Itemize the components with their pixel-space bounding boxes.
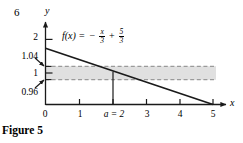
x-tick-label-3: 3 <box>140 110 154 120</box>
problem-number: 6 <box>14 7 20 18</box>
fraction-x-over-3: x 3 <box>99 28 105 45</box>
plus-sign: + <box>109 31 115 41</box>
equals-sign: = <box>79 31 85 41</box>
x-tick-label-a: a = 2 <box>96 110 132 120</box>
x-tick-label-0: 0 <box>38 110 52 120</box>
y-tick-label-2: 2 <box>22 33 38 43</box>
fraction-denominator: 3 <box>99 36 105 45</box>
figure-caption: Figure 5 <box>2 125 43 137</box>
x-tick-label-5: 5 <box>206 110 220 120</box>
x-axis-label: x <box>230 98 234 108</box>
fraction-numerator: 5 <box>119 28 125 36</box>
epsilon-band-fill <box>45 66 216 80</box>
y-tick-label-lower-bound: 0.96 <box>4 88 38 98</box>
fraction-numerator: x <box>99 28 104 36</box>
y-tick-label-upper-bound: 1.04 <box>4 52 38 62</box>
minus-sign: − <box>90 31 96 41</box>
function-equation-label: f(x) = − x 3 + 5 3 <box>62 28 125 45</box>
function-lhs: f(x) <box>62 31 76 41</box>
figure-container: 6 y x 2 1.04 1 0.96 0 1 a = 2 3 4 5 f(x)… <box>0 0 243 143</box>
fraction-denominator: 3 <box>119 36 125 45</box>
x-tick-label-4: 4 <box>173 110 187 120</box>
x-tick-label-1: 1 <box>73 110 87 120</box>
y-tick-label-1: 1 <box>22 69 38 79</box>
y-axis-label: y <box>45 6 49 16</box>
fraction-5-over-3: 5 3 <box>119 28 125 45</box>
